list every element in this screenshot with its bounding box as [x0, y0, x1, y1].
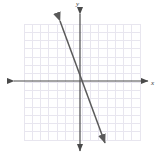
graph-canvas — [0, 0, 158, 164]
x-axis-label: x — [151, 80, 154, 87]
y-axis-label: y — [76, 1, 79, 8]
coordinate-plane-figure: y x — [0, 0, 158, 164]
